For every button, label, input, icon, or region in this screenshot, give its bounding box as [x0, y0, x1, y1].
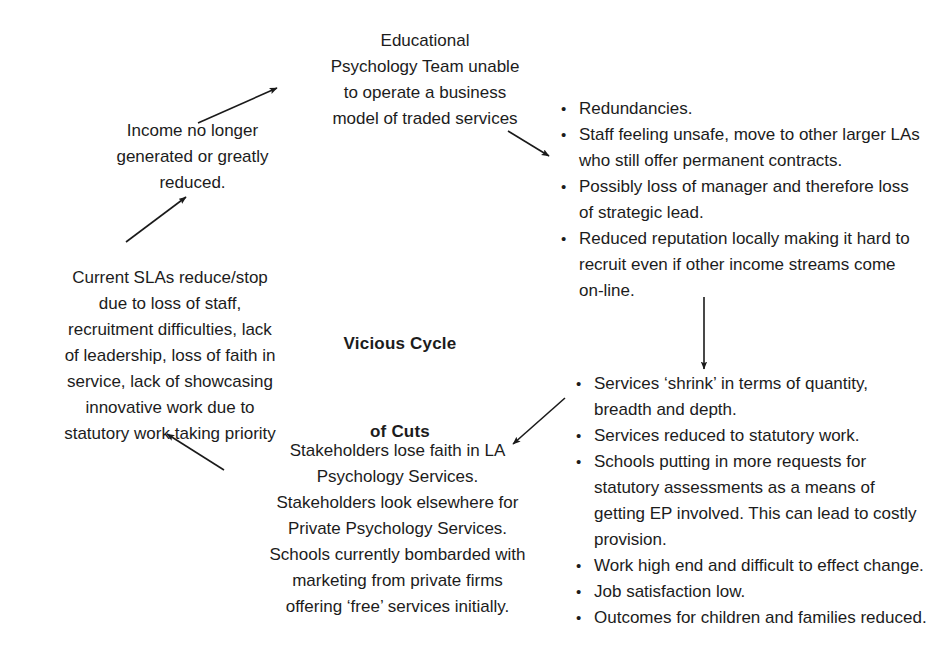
list-item-label: Redundancies.	[579, 96, 921, 122]
arrow-ep-team-to-staffing	[508, 131, 549, 156]
list-item: •Outcomes for children and families redu…	[576, 605, 928, 631]
bullet-icon: •	[576, 371, 594, 397]
bullet-list-staffing-impacts: •Redundancies.•Staff feeling unsafe, mov…	[561, 96, 921, 304]
list-item: •Services ‘shrink’ in terms of quantity,…	[576, 371, 928, 423]
list-item: •Work high end and difficult to effect c…	[576, 553, 928, 579]
bullet-icon: •	[561, 174, 579, 200]
node-income-no-longer-generated: Income no longer generated or greatly re…	[85, 118, 300, 196]
diagram-canvas: Educational Psychology Team unable to op…	[0, 0, 940, 649]
list-item-label: Reduced reputation locally making it har…	[579, 226, 921, 304]
list-item-label: Outcomes for children and families reduc…	[594, 605, 928, 631]
list-item-label: Staff feeling unsafe, move to other larg…	[579, 122, 921, 174]
bullet-icon: •	[576, 605, 594, 631]
node-current-slas-reduce-stop: Current SLAs reduce/stop due to loss of …	[30, 265, 310, 447]
list-item: •Job satisfaction low.	[576, 579, 928, 605]
title-line-2: of Cuts	[300, 410, 500, 454]
list-item: •Services reduced to statutory work.	[576, 423, 928, 449]
bullet-icon: •	[576, 579, 594, 605]
list-item-label: Possibly loss of manager and therefore l…	[579, 174, 921, 226]
bullet-icon: •	[561, 96, 579, 122]
bullet-icon: •	[576, 423, 594, 449]
bullet-icon: •	[561, 226, 579, 252]
bullet-icon: •	[576, 449, 594, 475]
page-title: Vicious Cycle of Cuts	[300, 278, 500, 498]
list-item-label: Job satisfaction low.	[594, 579, 928, 605]
list-item: •Redundancies.	[561, 96, 921, 122]
list-item: •Schools putting in more requests for st…	[576, 449, 928, 553]
bullet-icon: •	[561, 122, 579, 148]
list-item: •Reduced reputation locally making it ha…	[561, 226, 921, 304]
title-line-1: Vicious Cycle	[300, 322, 500, 366]
bullet-icon: •	[576, 553, 594, 579]
node-educational-psychology-team: Educational Psychology Team unable to op…	[310, 28, 540, 132]
list-item: •Possibly loss of manager and therefore …	[561, 174, 921, 226]
list-item: •Staff feeling unsafe, move to other lar…	[561, 122, 921, 174]
list-item-label: Schools putting in more requests for sta…	[594, 449, 928, 553]
arrow-slas-to-income	[126, 197, 186, 242]
list-item-label: Services reduced to statutory work.	[594, 423, 928, 449]
list-item-label: Work high end and difficult to effect ch…	[594, 553, 928, 579]
bullet-list-service-impacts: •Services ‘shrink’ in terms of quantity,…	[576, 371, 928, 631]
list-item-label: Services ‘shrink’ in terms of quantity, …	[594, 371, 928, 423]
